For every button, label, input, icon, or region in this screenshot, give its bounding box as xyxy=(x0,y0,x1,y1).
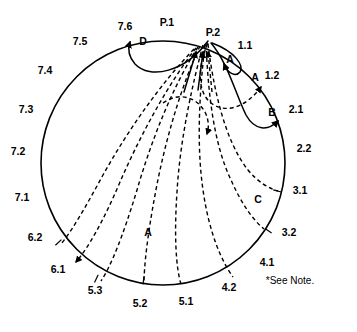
curve-label-c: C xyxy=(254,193,262,205)
see-note-label: *See Note. xyxy=(266,275,314,286)
boundary-label-7-4: 7.4 xyxy=(38,64,53,76)
curve-label-b: B xyxy=(268,106,276,118)
boundary-label-5-1: 5.1 xyxy=(179,295,194,307)
diagram-canvas: P.1 P.2 1.1 1.2 2.1 2.2 3.1 3.2 4.1 4.2 … xyxy=(0,0,357,332)
boundary-label-1-2: 1.2 xyxy=(265,69,280,81)
boundary-label-4-2: 4.2 xyxy=(222,281,237,293)
curve-4-2-path xyxy=(199,44,233,277)
boundary-label-p1: P.1 xyxy=(160,16,175,28)
boundary-label-3-2: 3.2 xyxy=(282,226,297,238)
converge-arrow-1 xyxy=(184,52,196,92)
boundary-label-7-2: 7.2 xyxy=(11,145,26,157)
boundary-label-7-3: 7.3 xyxy=(19,103,34,115)
tick-6-2 xyxy=(55,240,61,246)
curve-5-2-path xyxy=(144,46,200,283)
inner-connector-arc xyxy=(163,97,208,134)
curve-6-1-path xyxy=(76,48,196,262)
boundary-label-7-1: 7.1 xyxy=(15,191,30,203)
boundary-label-6-2: 6.2 xyxy=(28,231,43,243)
boundary-label-3-1: 3.1 xyxy=(293,184,308,196)
boundary-label-6-1: 6.1 xyxy=(51,263,66,275)
boundary-label-5-3: 5.3 xyxy=(88,284,103,296)
boundary-label-p2: P.2 xyxy=(206,26,221,38)
boundary-label-4-1: 4.1 xyxy=(260,256,275,268)
boundary-ticks xyxy=(55,190,281,285)
boundary-label-2-1: 2.1 xyxy=(289,103,304,115)
tick-3-2 xyxy=(265,228,272,233)
curve-label-d: D xyxy=(139,35,147,47)
circular-flow-diagram: P.1 P.2 1.1 1.2 2.1 2.2 3.1 3.2 4.1 4.2 … xyxy=(0,0,357,332)
boundary-label-7-6: 7.6 xyxy=(118,20,133,32)
curve-label-a-top: A xyxy=(226,53,234,65)
boundary-label-7-5: 7.5 xyxy=(73,35,88,47)
curve-label-a-bottom: A xyxy=(144,226,152,238)
boundary-label-1-1: 1.1 xyxy=(238,39,253,51)
boundary-label-5-2: 5.2 xyxy=(133,297,148,309)
tick-5-3 xyxy=(95,275,99,283)
boundary-label-group: P.1 P.2 1.1 1.2 2.1 2.2 3.1 3.2 4.1 4.2 … xyxy=(11,16,312,309)
circle-boundary xyxy=(41,41,285,285)
boundary-label-2-2: 2.2 xyxy=(297,142,312,154)
curve-label-a-right: A xyxy=(251,71,259,83)
curve-5-3-path xyxy=(101,47,198,281)
